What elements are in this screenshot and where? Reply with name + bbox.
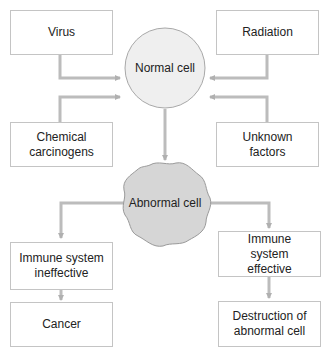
cause-radiation-box: Radiation [216,10,319,55]
outcome-cancer-label: Cancer [42,317,81,332]
cause-virus-label: Virus [48,25,75,40]
cause-radiation-label: Radiation [242,25,293,40]
arrow-chemical [60,97,120,122]
outcome-ineffective-label: Immune system ineffective [19,251,104,281]
normal-cell-label: Normal cell [125,61,205,75]
cause-chemical-box: Chemical carcinogens [10,122,113,167]
arrow-virus [60,54,120,78]
arrow-radiation [210,54,267,78]
outcome-cancer-box: Cancer [10,302,113,347]
cause-virus-box: Virus [10,10,113,55]
cause-unknown-box: Unknown factors [216,122,319,167]
outcome-destruction-box: Destruction of abnormal cell [218,301,321,347]
cause-unknown-label: Unknown factors [242,130,292,160]
outcome-destruction-label: Destruction of abnormal cell [231,309,308,339]
arrow-to-ineffective [61,203,124,238]
outcome-effective-box: Immune system effective [218,231,321,277]
outcome-effective-label: Immune system effective [229,232,310,277]
cause-chemical-label: Chemical carcinogens [29,130,94,160]
arrow-to-effective [208,203,269,228]
arrow-unknown [210,97,267,122]
abnormal-cell-label: Abnormal cell [120,196,210,210]
outcome-ineffective-box: Immune system ineffective [10,242,113,290]
